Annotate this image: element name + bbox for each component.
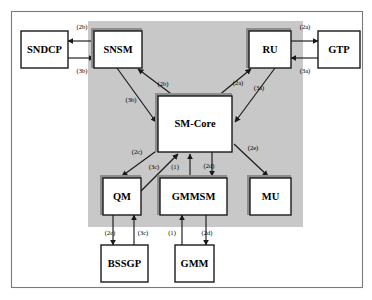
node-ru-label: RU bbox=[262, 44, 278, 55]
node-bssgp[interactable]: BSSGP bbox=[101, 245, 148, 282]
edge-label-1-core: (1) bbox=[171, 163, 179, 171]
node-gmm[interactable]: GMM bbox=[175, 245, 214, 282]
node-gmmsm-label: GMMSM bbox=[172, 191, 216, 202]
node-sndcp-label: SNDCP bbox=[27, 44, 63, 55]
node-bssgp-label: BSSGP bbox=[108, 258, 142, 269]
edge-label-2b-sndcp: (2b) bbox=[77, 23, 88, 31]
node-gtp-label: GTP bbox=[328, 44, 350, 55]
edge-label-3b-core: (3b) bbox=[126, 96, 137, 104]
edge-label-2a-core: (2a) bbox=[233, 79, 244, 87]
edge-label-3a-gtp: (3a) bbox=[300, 67, 311, 75]
diagram-canvas: SNDCP SNSM RU GTP bbox=[0, 0, 372, 300]
node-qm-label: QM bbox=[113, 191, 131, 202]
edge-label-2c-bssgp: (2c) bbox=[105, 229, 116, 237]
node-sndcp[interactable]: SNDCP bbox=[21, 31, 68, 68]
edge-label-1-gmm: (1) bbox=[168, 229, 176, 237]
node-gmm-label: GMM bbox=[181, 258, 209, 269]
node-snsm-label: SNSM bbox=[103, 44, 132, 55]
node-mu[interactable]: MU bbox=[247, 175, 291, 215]
node-mu-label: MU bbox=[262, 191, 280, 202]
edge-label-3a-core: (3a) bbox=[254, 84, 265, 92]
edge-label-2b-core: (2b) bbox=[158, 80, 169, 88]
node-qm[interactable]: QM bbox=[100, 175, 141, 215]
edge-label-2a-gtp: (2a) bbox=[300, 23, 311, 31]
edge-label-2d-gmm: (2d) bbox=[202, 229, 213, 237]
node-gmmsm[interactable]: GMMSM bbox=[157, 175, 227, 215]
architecture-diagram: SNDCP SNSM RU GTP bbox=[0, 0, 372, 300]
node-gtp[interactable]: GTP bbox=[318, 31, 360, 68]
node-smcore[interactable]: SM-Core bbox=[155, 93, 232, 152]
node-smcore-label: SM-Core bbox=[174, 118, 216, 129]
edge-label-2e-mu: (2e) bbox=[248, 144, 259, 152]
node-ru[interactable]: RU bbox=[246, 28, 291, 68]
edge-label-3b-sndcp: (3b) bbox=[77, 67, 88, 75]
edge-label-3c-bssgp: (3c) bbox=[138, 229, 149, 237]
edge-label-2d-core: (2d) bbox=[204, 162, 215, 170]
node-snsm[interactable]: SNSM bbox=[91, 28, 142, 68]
edge-label-2c-core: (2c) bbox=[132, 148, 143, 156]
edge-label-3c-core: (3c) bbox=[149, 163, 160, 171]
